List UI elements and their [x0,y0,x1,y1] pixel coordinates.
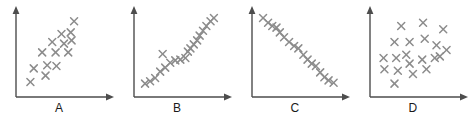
x-axis-arrow-icon [106,94,114,101]
data-point-marker [419,56,426,63]
data-point-marker [380,55,387,62]
data-point-marker [58,31,65,38]
data-point-marker [67,29,74,36]
scatter-panel-b: B [118,0,236,122]
scatter-panel-a: A [0,0,118,122]
data-point-marker [420,19,427,26]
data-point-group [142,15,218,88]
data-point-marker [44,62,51,69]
scatter-panel-c: C [236,0,354,122]
data-point-group [260,15,338,87]
y-axis-arrow-icon [367,6,374,14]
data-point-marker [52,49,59,56]
x-axis-arrow-icon [342,94,350,101]
data-point-marker [423,66,430,73]
data-point-marker [27,79,34,86]
data-point-marker [406,39,413,46]
x-axis-arrow-icon [460,94,468,101]
data-point-marker [440,26,447,33]
data-point-marker [409,71,416,78]
data-point-marker [30,65,37,72]
panel-label-d: D [354,101,472,115]
data-point-group [380,19,450,87]
data-point-marker [39,49,46,56]
scatter-plot-figure: A B C D [0,0,474,122]
data-point-marker [71,18,78,25]
data-point-marker [159,51,166,58]
data-point-group [27,18,78,86]
data-point-marker [210,15,217,22]
data-point-marker [406,60,413,67]
data-point-marker [391,39,398,46]
scatter-panel-d: D [354,0,472,122]
data-point-marker [65,49,72,56]
data-point-marker [443,47,450,54]
panel-label-c: C [236,101,354,115]
data-point-marker [394,67,401,74]
data-point-marker [403,51,410,58]
data-point-marker [391,80,398,87]
x-axis-arrow-icon [224,94,232,101]
data-point-marker [421,35,428,42]
panel-label-b: B [118,101,236,115]
data-point-marker [68,37,75,44]
data-point-marker [398,23,405,30]
data-point-marker [381,66,388,73]
data-point-marker [433,42,440,49]
y-axis-arrow-icon [131,6,138,14]
panel-label-a: A [0,101,118,115]
data-point-marker [42,72,49,79]
data-point-marker [61,40,68,47]
data-point-marker [393,55,400,62]
data-point-marker [53,63,60,70]
y-axis-arrow-icon [249,6,256,14]
data-point-marker [49,39,56,46]
y-axis-arrow-icon [13,6,20,14]
